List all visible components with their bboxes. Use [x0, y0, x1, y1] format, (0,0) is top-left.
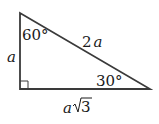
triangle-diagram: 60° 30° a 2a a 3	[0, 0, 159, 124]
side-vertical-label: a	[7, 48, 16, 66]
base-label: a 3	[63, 98, 92, 117]
angle-top-label: 60°	[22, 26, 49, 44]
hypotenuse-label: 2a	[82, 33, 103, 51]
base-root: 3	[81, 98, 91, 116]
hypotenuse-coef: 2	[82, 33, 92, 51]
triangle-shape	[20, 13, 150, 89]
base-var: a	[63, 99, 72, 117]
right-angle-marker	[20, 81, 28, 89]
hypotenuse-var: a	[94, 33, 103, 51]
angle-right-label: 30°	[96, 72, 123, 90]
